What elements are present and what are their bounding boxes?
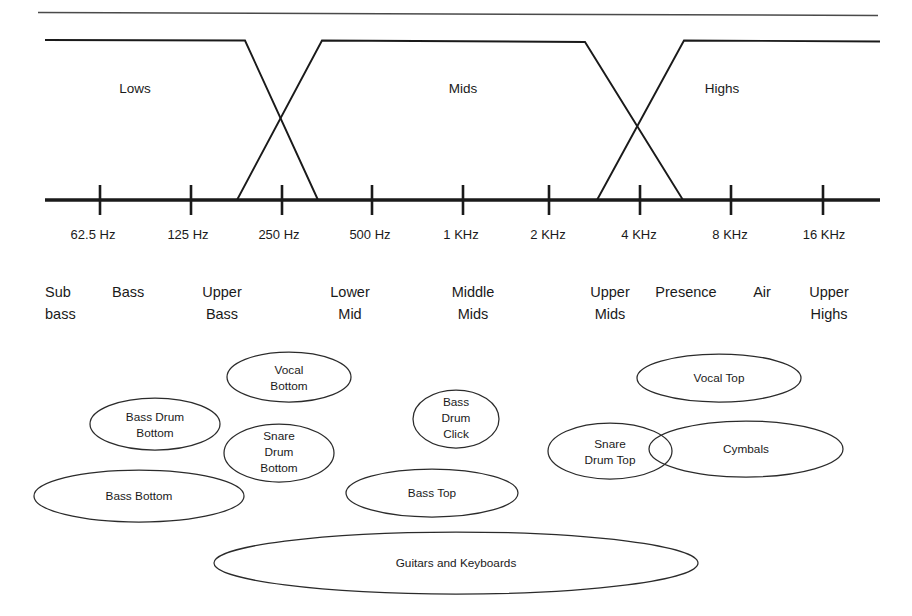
axis-tick-label-62-5hz: 62.5 Hz: [71, 227, 116, 242]
axis-tick-label-16khz: 16 KHz: [803, 227, 846, 242]
snare-drum-bottom-label-line2: Drum: [265, 445, 294, 459]
frequency-spectrum-figure: Lows Mids Highs 62.5 Hz 125 Hz 250 Hz 50…: [0, 0, 912, 616]
band-name-air-line1: Air: [753, 284, 771, 300]
snare-drum-top-ellipse: [548, 423, 672, 479]
bass-bottom-label: Bass Bottom: [106, 489, 173, 503]
band-name-upper-bass-line1: Upper: [202, 284, 242, 300]
bass-drum-bottom-label-line2: Bottom: [136, 426, 174, 440]
instrument-range-snare-drum-bottom: Snare Drum Bottom: [224, 424, 334, 482]
band-name-middle-mids-line2: Mids: [458, 306, 489, 322]
region-label-lows: Lows: [119, 81, 151, 96]
band-name-bass: Bass: [112, 284, 144, 300]
region-label-highs: Highs: [705, 81, 740, 96]
instrument-range-bass-drum-click: Bass Drum Click: [413, 390, 499, 448]
band-name-lower-mid-line2: Mid: [338, 306, 361, 322]
vocal-top-label: Vocal Top: [694, 371, 745, 385]
band-name-presence-line1: Presence: [655, 284, 716, 300]
guitars-and-keyboards-label: Guitars and Keyboards: [396, 556, 517, 570]
diagram-canvas: Lows Mids Highs 62.5 Hz 125 Hz 250 Hz 50…: [0, 0, 912, 616]
band-name-sub-bass: Sub bass: [45, 284, 76, 322]
band-name-upper-highs-line2: Highs: [810, 306, 847, 322]
axis-tick-label-250hz: 250 Hz: [258, 227, 299, 242]
band-name-upper-mids-line2: Mids: [595, 306, 626, 322]
axis-tick-label-8khz: 8 KHz: [712, 227, 747, 242]
vocal-bottom-ellipse: [227, 352, 351, 402]
top-divider-rule: [38, 13, 878, 16]
band-name-lower-mid: Lower Mid: [330, 284, 370, 322]
instrument-range-guitars-and-keyboards: Guitars and Keyboards: [214, 532, 698, 594]
snare-drum-top-label-line2: Drum Top: [585, 453, 636, 467]
instrument-range-bass-drum-bottom: Bass Drum Bottom: [90, 398, 220, 450]
mids-crossover-curve: [237, 41, 683, 201]
bass-top-label: Bass Top: [408, 486, 457, 500]
instrument-range-bass-top: Bass Top: [346, 469, 518, 517]
band-name-upper-mids: Upper Mids: [590, 284, 630, 322]
vocal-bottom-label-line2: Bottom: [270, 379, 308, 393]
band-name-bass-line1: Bass: [112, 284, 144, 300]
axis-tick-label-1khz: 1 KHz: [443, 227, 478, 242]
instrument-range-cymbals: Cymbals: [649, 421, 843, 477]
band-name-presence: Presence: [655, 284, 716, 300]
instrument-range-snare-drum-top: Snare Drum Top: [548, 423, 672, 479]
bass-drum-click-label-line3: Click: [443, 427, 469, 441]
instrument-range-vocal-bottom: Vocal Bottom: [227, 352, 351, 402]
band-name-air: Air: [753, 284, 771, 300]
band-name-middle-mids-line1: Middle: [452, 284, 495, 300]
axis-tick-label-2khz: 2 KHz: [530, 227, 565, 242]
bass-drum-click-label-line1: Bass: [443, 395, 469, 409]
region-label-mids: Mids: [449, 81, 478, 96]
band-name-upper-highs-line1: Upper: [809, 284, 849, 300]
bass-drum-bottom-label-line1: Bass Drum: [126, 410, 185, 424]
axis-tick-label-500hz: 500 Hz: [349, 227, 390, 242]
band-name-upper-bass: Upper Bass: [202, 284, 242, 322]
band-name-middle-mids: Middle Mids: [452, 284, 495, 322]
cymbals-label: Cymbals: [723, 442, 769, 456]
band-name-upper-mids-line1: Upper: [590, 284, 630, 300]
snare-drum-bottom-label-line3: Bottom: [260, 461, 298, 475]
bass-drum-bottom-ellipse: [90, 398, 220, 450]
band-name-upper-bass-line2: Bass: [206, 306, 238, 322]
band-name-sub-bass-line1: Sub: [45, 284, 71, 300]
band-name-upper-highs: Upper Highs: [809, 284, 849, 322]
axis-tick-label-4khz: 4 KHz: [621, 227, 656, 242]
band-name-sub-bass-line2: bass: [45, 306, 76, 322]
highs-crossover-curve: [597, 41, 880, 201]
vocal-bottom-label-line1: Vocal: [275, 363, 304, 377]
instrument-range-bass-bottom: Bass Bottom: [34, 470, 244, 522]
lows-crossover-curve: [45, 40, 318, 200]
band-name-lower-mid-line1: Lower: [330, 284, 370, 300]
instrument-range-vocal-top: Vocal Top: [637, 354, 801, 402]
axis-tick-label-125hz: 125 Hz: [167, 227, 208, 242]
snare-drum-top-label-line1: Snare: [594, 437, 626, 451]
bass-drum-click-label-line2: Drum: [442, 411, 471, 425]
snare-drum-bottom-label-line1: Snare: [263, 429, 295, 443]
